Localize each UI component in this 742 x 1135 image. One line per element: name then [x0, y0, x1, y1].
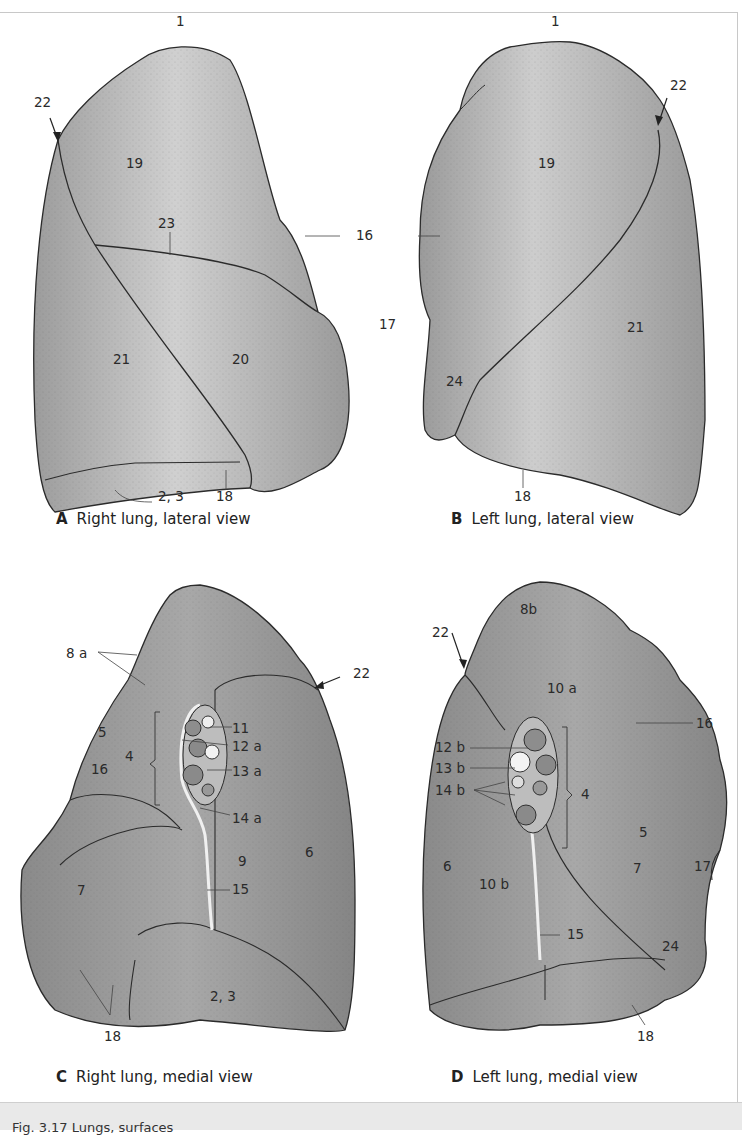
label-7: 7 — [633, 862, 642, 876]
label-cardiac-notch: 16 — [91, 763, 108, 777]
panel-a-title: Right lung, lateral view — [77, 510, 251, 528]
panel-c-letter: C — [56, 1068, 67, 1086]
label-7: 7 — [77, 884, 86, 898]
label-diaphragmatic-surface: 2, 3 — [210, 990, 236, 1004]
label-hilum-4: 4 — [125, 750, 134, 764]
figure-caption: Fig. 3.17 Lungs, surfaces — [12, 1120, 173, 1135]
label-10a: 10 a — [547, 682, 577, 696]
label-lingula: 24 — [662, 940, 679, 954]
label-lingula: 24 — [446, 375, 463, 389]
panel-d-title: Left lung, medial view — [472, 1068, 637, 1086]
panel-d-drawing — [423, 582, 727, 1030]
label-anterior-border: 22 — [34, 96, 51, 110]
panel-d-letter: D — [451, 1068, 463, 1086]
panel-a-letter: A — [56, 510, 68, 528]
label-13b: 13 b — [435, 762, 465, 776]
panel-c-title: Right lung, medial view — [76, 1068, 253, 1086]
panel-b-drawing — [418, 42, 705, 515]
label-11: 11 — [232, 722, 249, 736]
panel-c-caption: CRight lung, medial view — [56, 1068, 253, 1086]
panel-b-caption: BLeft lung, lateral view — [451, 510, 634, 528]
panel-b-title: Left lung, lateral view — [471, 510, 634, 528]
label-apex: 1 — [176, 15, 185, 29]
label-pulmonary-ligament: 15 — [567, 928, 584, 942]
label-superior-lobe: 19 — [538, 157, 555, 171]
label-cardiac-notch: 17 — [379, 318, 396, 332]
panel-a-caption: ARight lung, lateral view — [56, 510, 250, 528]
label-inferior-border: 18 — [514, 490, 531, 504]
label-14b: 14 b — [435, 784, 465, 798]
label-inferior-border: 18 — [216, 490, 233, 504]
label-12a: 12 a — [232, 740, 262, 754]
label-14a: 14 a — [232, 812, 262, 826]
lung-illustration — [0, 0, 742, 1102]
label-10b: 10 b — [479, 878, 509, 892]
label-inferior-lobe: 21 — [627, 321, 644, 335]
label-9: 9 — [238, 855, 247, 869]
panel-b-letter: B — [451, 510, 462, 528]
figure-caption-bar: Fig. 3.17 Lungs, surfaces — [0, 1102, 742, 1130]
label-cardiac-notch: 16 — [696, 717, 713, 731]
label-anterior-border: 22 — [670, 79, 687, 93]
label-impression-8b: 8b — [520, 603, 537, 617]
label-12b: 12 b — [435, 741, 465, 755]
label-13a: 13 a — [232, 765, 262, 779]
label-pulmonary-ligament: 15 — [232, 883, 249, 897]
label-5: 5 — [639, 826, 648, 840]
label-middle-lobe: 20 — [232, 353, 249, 367]
label-5: 5 — [98, 726, 107, 740]
label-hilum-4: 4 — [581, 788, 590, 802]
label-cardiac-notch-17: 17 — [694, 860, 711, 874]
label-inferior-border: 18 — [104, 1030, 121, 1044]
label-superior-lobe: 19 — [126, 157, 143, 171]
label-anterior-border: 22 — [353, 667, 370, 681]
label-inferior-lobe: 21 — [113, 353, 130, 367]
label-6: 6 — [305, 846, 314, 860]
label-apex: 1 — [551, 15, 560, 29]
label-diaphragmatic-surface: 2, 3 — [158, 490, 184, 504]
panel-a-drawing — [34, 47, 349, 512]
label-cardiac-notch: 16 — [356, 229, 373, 243]
label-anterior-border: 22 — [432, 626, 449, 640]
panel-d-caption: DLeft lung, medial view — [451, 1068, 638, 1086]
label-inferior-border: 18 — [637, 1030, 654, 1044]
label-6: 6 — [443, 860, 452, 874]
label-horizontal-fissure: 23 — [158, 217, 175, 231]
label-impression-8a: 8 a — [66, 647, 87, 661]
